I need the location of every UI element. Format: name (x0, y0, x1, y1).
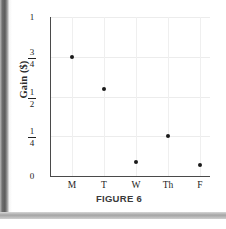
scanned-page: Gain ($) 01412341 MTWThF FIGURE 6 (0, 0, 226, 229)
data-point (70, 55, 74, 59)
figure-container: Gain ($) 01412341 MTWThF FIGURE 6 (12, 0, 226, 212)
y-tick-label: 34 (19, 48, 45, 69)
data-point (102, 87, 106, 91)
gridline-horizontal (51, 17, 210, 18)
plot-area: 01412341 MTWThF (50, 17, 210, 176)
x-tick-label: T (89, 180, 119, 190)
gridline-horizontal (51, 136, 210, 137)
gridline-vertical (200, 17, 201, 176)
gridline-vertical (136, 17, 137, 176)
figure-caption: FIGURE 6 (12, 193, 226, 204)
page-bottom-margin (0, 219, 226, 229)
fraction-numerator: 1 (19, 88, 45, 97)
y-tick-label: 1 (19, 13, 45, 22)
data-point (134, 160, 138, 164)
x-tick-label: M (57, 180, 87, 190)
fraction-denominator: 4 (19, 139, 45, 148)
gridline-vertical (104, 17, 105, 176)
data-point (198, 163, 202, 167)
book-spine-shadow (0, 0, 9, 216)
page-bottom-shadow (0, 212, 226, 219)
gridline-vertical (72, 17, 73, 176)
fraction-numerator: 3 (19, 48, 45, 57)
fraction-denominator: 2 (19, 100, 45, 109)
y-tick-label: 0 (19, 172, 45, 181)
data-point (166, 134, 170, 138)
x-tick-label: F (185, 180, 215, 190)
gridline-vertical (168, 17, 169, 176)
gridline-horizontal (51, 57, 210, 58)
y-tick-label: 14 (19, 127, 45, 148)
fraction-numerator: 1 (19, 127, 45, 136)
x-axis-line (50, 176, 210, 177)
fraction-denominator: 4 (19, 60, 45, 69)
gridline-horizontal (51, 97, 210, 98)
x-tick-label: W (121, 180, 151, 190)
x-tick-label: Th (153, 180, 183, 190)
y-tick-label: 12 (19, 88, 45, 109)
